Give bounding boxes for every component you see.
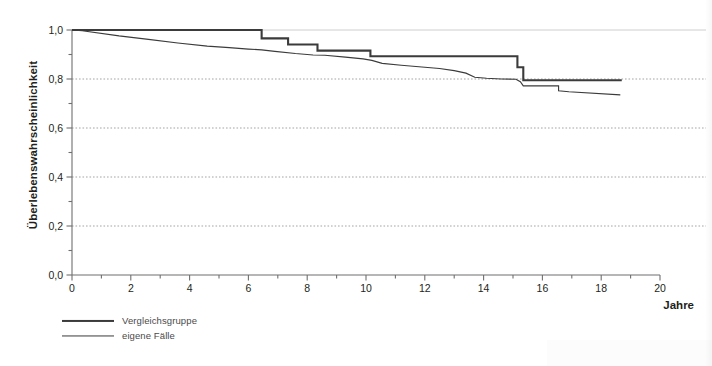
series-line-eigene-f-lle (72, 30, 620, 95)
chart-legend: Vergleichsgruppe eigene Fälle (62, 313, 197, 343)
x-tick-label-5: 10 (360, 282, 372, 294)
plot-area: 0,00,20,40,60,81,002468101214161820 (0, 0, 712, 366)
legend-label-own-cases: eigene Fälle (122, 330, 175, 341)
x-tick-label-9: 18 (595, 282, 607, 294)
y-axis-label: Überlebenswahrscheinlichkeit (27, 61, 39, 229)
x-tick-label-6: 12 (419, 282, 431, 294)
x-tick-label-10: 20 (654, 282, 666, 294)
y-tick-label-2: 0,4 (48, 171, 63, 183)
y-tick-label-4: 0,8 (48, 73, 63, 85)
legend-item-vergleichsgruppe: Vergleichsgruppe (62, 313, 197, 328)
y-tick-label-5: 1,0 (48, 24, 63, 36)
x-tick-label-2: 4 (187, 282, 193, 294)
y-tick-label-3: 0,6 (48, 122, 63, 134)
legend-item-eigene-faelle: eigene Fälle (62, 328, 197, 343)
x-tick-label-4: 8 (304, 282, 310, 294)
legend-label-comparison: Vergleichsgruppe (122, 315, 197, 326)
x-axis-label: Jahre (663, 299, 694, 311)
y-tick-label-1: 0,2 (48, 220, 63, 232)
x-tick-label-8: 16 (537, 282, 549, 294)
y-tick-label-0: 0,0 (48, 269, 63, 281)
series-line-vergleichsgruppe (72, 30, 622, 80)
x-tick-label-7: 14 (478, 282, 490, 294)
survival-curve-figure: 0,00,20,40,60,81,002468101214161820 Über… (0, 0, 712, 366)
x-tick-label-3: 6 (245, 282, 251, 294)
x-tick-label-1: 2 (128, 282, 134, 294)
y-axis-label-container: Überlebenswahrscheinlichkeit (22, 0, 44, 290)
x-tick-label-0: 0 (69, 282, 75, 294)
